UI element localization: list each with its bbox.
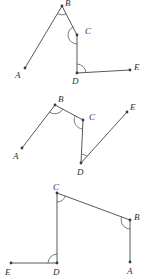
figure-1-point-e [129,69,132,72]
figure-3-angle-mark-d [48,254,57,263]
figure-1-point-c [76,34,79,37]
figure-3-label-a: A [126,266,133,276]
figure-1-point-a [24,67,27,70]
figure-1-segment-d-e [77,70,130,73]
figure-1-label-e: E [133,62,140,72]
geometry-figure-sheet: ABCDEABCDEABCDE [0,0,146,279]
figure-3-label-b: B [134,212,140,222]
figure-1-angle-mark-c [68,27,77,44]
figure-1-label-c: C [85,26,92,36]
figure-2-label-b: B [58,94,64,104]
figure-1-point-b [61,5,64,8]
figure-2-segment-d-e [81,112,127,163]
figure-2-point-c [82,119,85,122]
figure-1-segment-b-c [62,6,77,35]
figure-2-point-b [54,104,57,107]
figure-3-point-b [129,219,132,222]
figure-1-label-d: D [71,76,79,86]
figure-2-point-d [80,162,83,165]
figure-1-label-a: A [14,70,21,80]
figure-canvas: ABCDEABCDEABCDE [0,0,146,279]
figure-2-segment-a-b [22,105,55,148]
figure-3-label-c: C [53,182,60,192]
figure-2-point-a [21,147,24,150]
figure-2-angle-mark-d [81,154,87,156]
figure-1-point-d [76,72,79,75]
figure-2-label-e: E [129,102,136,112]
figure-2-label-a: A [12,151,19,161]
figure-3-label-e: E [4,267,11,277]
figure-3-point-c [56,192,59,195]
figure-3-point-a [129,261,132,264]
figure-1-angle-mark-b [57,14,66,15]
figure-3-segment-b-c [57,193,130,220]
figure-2-point-e [126,111,129,114]
figure-1-angle-mark-d [77,64,86,72]
figure-2-label-d: D [76,167,84,177]
figure-3-angle-mark-c [57,196,65,202]
figure-2: ABCDE [12,94,136,177]
figure-1: ABCDE [14,0,140,86]
figure-3-point-d [56,262,59,265]
figure-1-label-b: B [65,0,71,8]
figure-3-point-e [10,262,13,265]
figure-2-segment-c-d [81,120,83,163]
figure-3-label-d: D [52,267,60,277]
figure-3: ABCDE [4,182,140,277]
figure-2-label-c: C [89,112,96,122]
figure-1-segment-a-b [25,6,62,68]
